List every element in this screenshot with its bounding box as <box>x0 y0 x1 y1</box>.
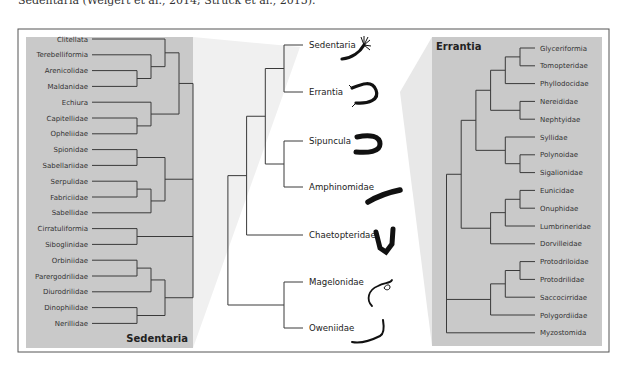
taxon-label: Nephtyidae <box>540 116 580 124</box>
taxon-label: Nereididae <box>540 98 578 106</box>
taxon-label: Eunicidae <box>540 187 574 195</box>
taxon-label: Saccocirridae <box>540 294 587 302</box>
taxon-label: Onuphidae <box>540 205 578 213</box>
taxon-label: Lumbrineridae <box>540 223 591 231</box>
taxon-label: Siboglinidae <box>45 241 88 249</box>
taxon-label: Sabellariidae <box>43 162 88 170</box>
taxon-label: Fabriciidae <box>50 194 88 202</box>
clade-label: Amphinomidae <box>309 182 374 192</box>
phylogeny-figure: Sedentaria Errantia ClitellataTerebellif… <box>0 0 622 367</box>
taxon-label: Dinophilidae <box>44 304 88 312</box>
taxon-label: Serpulidae <box>51 178 88 186</box>
taxon-label: Myzostomida <box>540 329 586 337</box>
taxon-label: Arenicolidae <box>45 67 88 75</box>
taxon-label: Maldanidae <box>48 83 88 91</box>
clade-label: Magelonidae <box>309 277 364 287</box>
taxon-label: Terebelliformia <box>35 51 88 59</box>
taxon-label: Spionidae <box>53 146 88 154</box>
clade-label: Oweniidae <box>309 323 354 333</box>
taxon-label: Tomopteridae <box>539 62 588 70</box>
clade-label: Sipuncula <box>309 136 351 146</box>
taxon-label: Polygordiidae <box>540 312 587 320</box>
clade-label: Errantia <box>309 87 343 97</box>
taxon-label: Opheliidae <box>50 130 88 138</box>
sedentaria-panel-title: Sedentaria <box>126 333 188 344</box>
errantia-panel-title: Errantia <box>436 41 482 52</box>
taxon-label: Capitellidae <box>47 115 89 123</box>
taxon-label: Sabellidae <box>52 209 88 217</box>
taxon-label: Parergodrilidae <box>35 273 88 281</box>
taxon-label: Cirratuliformia <box>38 225 88 233</box>
taxon-label: Dorvilleidae <box>540 240 582 248</box>
taxon-label: Glyceriformia <box>540 45 587 53</box>
taxon-label: Syllidae <box>540 134 567 142</box>
taxon-label: Orbiniidae <box>52 257 88 265</box>
taxon-label: Sigalionidae <box>540 169 583 177</box>
clade-label: Chaetopteridae <box>309 230 376 240</box>
taxon-label: Diurodrilidae <box>43 288 88 296</box>
taxon-label: Nerillidae <box>55 320 88 328</box>
taxon-label: Clitellata <box>57 36 88 44</box>
taxon-label: Protodriloidae <box>540 258 589 266</box>
taxon-label: Echiura <box>62 99 88 107</box>
clade-label: Sedentaria <box>309 40 356 50</box>
taxon-label: Phyllodocidae <box>540 80 589 88</box>
taxon-label: Protodrilidae <box>540 276 584 284</box>
taxon-label: Polynoidae <box>540 151 578 159</box>
